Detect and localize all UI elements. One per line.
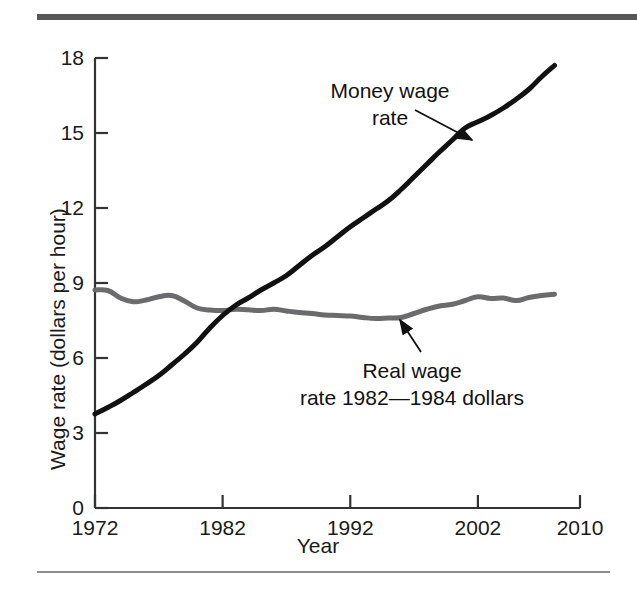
annotation-money-wage-rate: Money wage rate xyxy=(330,78,449,132)
real-wage-annotation-arrow xyxy=(400,320,421,352)
y-axis-title-text: Wage rate (dollars per hour) xyxy=(46,208,70,470)
annotation-money-wage-rate-line2: rate xyxy=(330,105,449,132)
annotation-money-wage-rate-line1: Money wage xyxy=(330,78,449,105)
x-axis-title: Year xyxy=(297,534,339,558)
x-axis-ticks xyxy=(95,495,580,508)
x-axis-tick-label: 2002 xyxy=(455,516,502,540)
x-axis-tick-label: 1972 xyxy=(72,516,119,540)
y-axis-tick-label: 15 xyxy=(40,121,84,145)
x-axis-tick-label: 2010 xyxy=(557,516,604,540)
y-axis-tick-label: 18 xyxy=(40,46,84,70)
figure-container: 0369121518 19721982199220022010 Wage rat… xyxy=(0,0,637,595)
annotation-real-wage-rate-line2: rate 1982—1984 dollars xyxy=(300,385,524,412)
annotation-real-wage-rate-line1: Real wage xyxy=(300,358,524,385)
line-chart-plot xyxy=(0,0,637,595)
y-axis-ticks xyxy=(95,58,108,508)
x-axis-tick-label: 1982 xyxy=(199,516,246,540)
series-line-money-wage-rate xyxy=(95,290,554,319)
annotation-real-wage-rate: Real wage rate 1982—1984 dollars xyxy=(300,358,524,412)
